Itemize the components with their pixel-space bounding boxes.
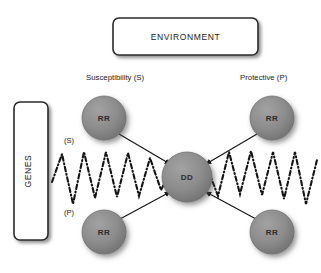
- node-rr-bottom-left[interactable]: RR: [82, 210, 126, 254]
- wave-label-protective: (P): [64, 208, 75, 217]
- node-dd-center[interactable]: DD: [162, 152, 212, 202]
- wave-group-left: [52, 152, 170, 204]
- node-rr-top-right[interactable]: RR: [250, 96, 294, 140]
- environment-box: ENVIRONMENT: [113, 18, 258, 55]
- node-rr-top-left[interactable]: RR: [82, 96, 126, 140]
- environment-box-label: ENVIRONMENT: [151, 32, 220, 42]
- diagram-canvas: ENVIRONMENT GENES Susceptibility (S) Pro…: [0, 0, 321, 273]
- genes-box: GENES: [14, 102, 48, 240]
- wave-group-right: [209, 151, 317, 204]
- edge-bottom-right-to-dd: [206, 192, 256, 219]
- wave-left: [52, 152, 170, 204]
- node-rr-bottom-right[interactable]: RR: [250, 210, 294, 254]
- column-header-susceptibility: Susceptibility (S): [86, 73, 144, 82]
- wave-right: [209, 151, 317, 204]
- node-label: DD: [181, 173, 193, 182]
- column-header-protective: Protective (P): [240, 73, 288, 82]
- edge-bottom-left-to-dd: [120, 192, 170, 219]
- node-label: RR: [266, 228, 278, 237]
- node-label: RR: [266, 114, 278, 123]
- genes-box-label: GENES: [23, 155, 33, 188]
- wave-label-susceptibility: (S): [64, 136, 75, 145]
- gene-environment-diagram: ENVIRONMENT GENES Susceptibility (S) Pro…: [0, 0, 321, 273]
- node-label: RR: [98, 114, 110, 123]
- node-label: RR: [98, 228, 110, 237]
